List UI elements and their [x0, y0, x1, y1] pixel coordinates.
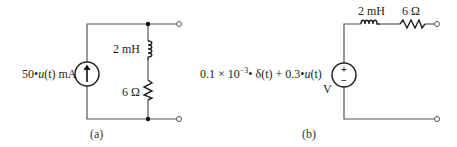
resistor-icon	[144, 80, 152, 100]
circuit-a: 50•u(t) mA 2 mH 6 Ω (a)	[22, 22, 182, 142]
minus-sign: −	[341, 75, 347, 86]
resistor-label-b: 6 Ω	[402, 4, 420, 18]
resistor-label-a: 6 Ω	[122, 85, 140, 99]
terminal-a-top	[177, 22, 182, 27]
voltage-unit-label: V	[323, 82, 332, 96]
circuit-b: + − 2 mH 6 Ω 0.1 × 10−3• δ(t) + 0.3•u(t)…	[200, 4, 440, 141]
inductor-icon	[148, 41, 152, 60]
voltage-source-icon: + −	[332, 63, 356, 87]
terminal-a-bottom	[177, 117, 182, 122]
current-source-icon	[75, 62, 99, 86]
resistor-icon	[400, 20, 425, 28]
caption-b: (b)	[302, 127, 316, 141]
caption-a: (a)	[90, 127, 103, 141]
junction-dot-top	[146, 22, 150, 26]
circuit-diagrams: 50•u(t) mA 2 mH 6 Ω (a) + − 2 mH 6 Ω	[0, 0, 457, 147]
terminal-b-bottom	[435, 117, 440, 122]
terminal-b-top	[435, 22, 440, 27]
voltage-source-label: 0.1 × 10−3• δ(t) + 0.3•u(t)	[200, 66, 322, 81]
inductor-label-b: 2 mH	[358, 4, 385, 18]
current-source-label: 50•u(t) mA	[22, 67, 77, 81]
inductor-icon	[361, 20, 380, 24]
wire-b-top-left	[344, 24, 361, 63]
inductor-label-a: 2 mH	[113, 42, 140, 56]
wire-b-bottom	[344, 87, 434, 119]
junction-dot-bottom	[146, 117, 150, 121]
plus-sign: +	[341, 64, 347, 75]
